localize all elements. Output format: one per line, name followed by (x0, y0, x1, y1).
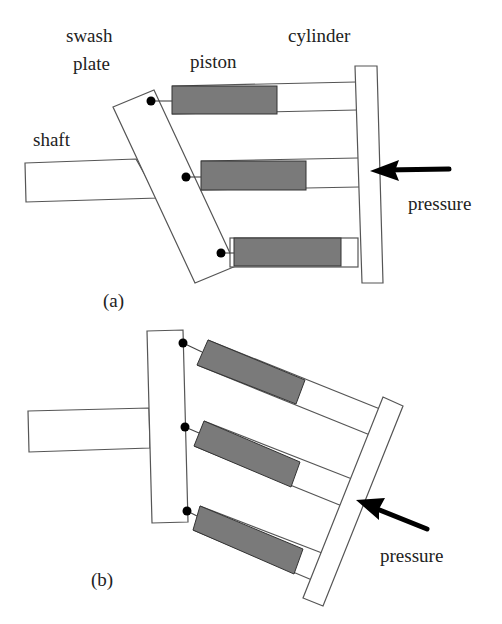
pivot-top-b (179, 339, 188, 348)
piston-middle-a (201, 161, 306, 190)
piston-top-a (172, 86, 277, 114)
piston-bottom-b (193, 506, 303, 574)
shaft-b (28, 408, 150, 452)
pivot-middle-b (181, 423, 190, 432)
caption-a: (a) (103, 290, 124, 312)
pivot-top-a (147, 97, 156, 106)
pressure-arrow-a (370, 160, 449, 181)
piston-middle-b (194, 421, 300, 487)
pivot-bottom-a (217, 249, 226, 258)
label-cylinder: cylinder (288, 25, 351, 46)
cylinder-block-a (355, 66, 383, 283)
figure-b: pressure (b) (28, 330, 443, 606)
pivot-middle-a (182, 173, 191, 182)
label-plate: plate (73, 53, 110, 74)
pivot-bottom-b (183, 507, 192, 516)
label-pressure-a: pressure (408, 193, 471, 214)
shaft-a (25, 159, 158, 202)
label-shaft: shaft (33, 129, 71, 150)
piston-bottom-a (234, 238, 341, 266)
swash-plate-pump-diagram: swash plate piston cylinder shaft pressu… (0, 0, 502, 624)
pressure-arrow-b (356, 498, 427, 529)
label-swash: swash (66, 25, 113, 46)
figure-a: swash plate piston cylinder shaft pressu… (25, 25, 471, 312)
label-pressure-b: pressure (380, 545, 443, 566)
caption-b: (b) (91, 569, 113, 591)
label-piston: piston (190, 51, 237, 72)
